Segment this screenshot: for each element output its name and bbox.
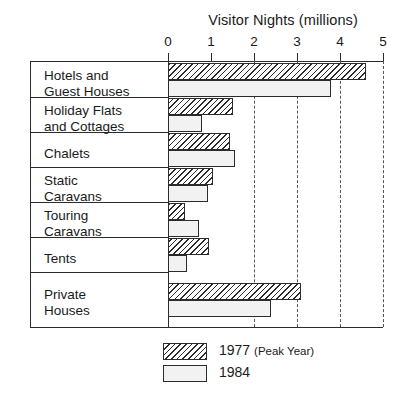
bar-1977-hotels-and-guest-houses [168,63,366,80]
x-tick-mark-5 [383,53,384,61]
bar-1977-private-houses [168,283,301,300]
x-tick-label-4: 4 [336,34,344,49]
bar-chart: Visitor Nights (millions) 0 1 2 3 4 5 Ho… [0,0,405,403]
gridline-4 [340,61,341,327]
x-axis-tick-labels: 0 1 2 3 4 5 [0,34,405,52]
plot-bottom-rule [30,327,383,328]
bar-1977-static-caravans [168,168,213,185]
bar-1977-tents [168,238,209,255]
legend-label-1977-main: 1977 [219,342,250,358]
bar-1977-chalets [168,133,230,150]
row-divider-3 [30,167,168,168]
chart-title: Visitor Nights (millions) [168,12,398,28]
x-tick-label-5: 5 [379,34,387,49]
x-tick-mark-1 [211,53,212,61]
category-label-static-caravans: Static Caravans [44,173,102,205]
legend-label-1977-sub: (Peak Year) [254,345,314,357]
legend-label-1977: 1977 (Peak Year) [219,342,314,358]
bar-1977-holiday-flats-and-cottages [168,98,233,115]
hatched-swatch-icon [163,343,207,360]
category-label-chalets: Chalets [44,146,90,162]
x-tick-mark-4 [340,53,341,61]
category-label-hotels-and-guest-houses: Hotels and Guest Houses [44,68,130,100]
x-tick-label-3: 3 [293,34,301,49]
bar-1984-hotels-and-guest-houses [168,80,331,97]
x-tick-mark-2 [254,53,255,61]
x-tick-label-2: 2 [250,34,258,49]
category-label-touring-caravans: Touring Caravans [44,208,102,240]
bar-1984-tents [168,255,187,272]
x-tick-label-0: 0 [164,34,172,49]
label-column-border [30,61,31,328]
category-label-holiday-flats-and-cottages: Holiday Flats and Cottages [44,103,124,135]
gridline-5 [383,61,384,327]
x-tick-mark-3 [297,53,298,61]
bar-1984-chalets [168,150,235,167]
dotted-swatch-icon [163,365,207,382]
bar-1984-private-houses [168,300,271,317]
category-label-tents: Tents [44,251,76,267]
category-label-private-houses: Private Houses [44,287,90,319]
legend-label-1984: 1984 [219,364,250,380]
row-divider-6 [30,272,168,273]
bar-1984-static-caravans [168,185,208,202]
x-tick-label-1: 1 [207,34,215,49]
bar-1977-touring-caravans [168,203,185,220]
bar-1984-holiday-flats-and-cottages [168,115,202,132]
legend-label-1984-main: 1984 [219,364,250,380]
x-tick-mark-0 [168,53,169,61]
bar-1984-touring-caravans [168,220,199,237]
